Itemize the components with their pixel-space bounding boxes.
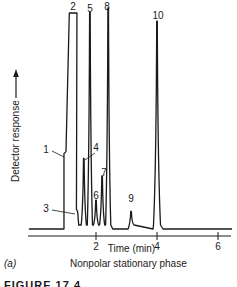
peak-label-6: 6 [93,190,99,201]
peak-label-10: 10 [152,10,164,21]
peak-label-1: 1 [43,144,49,155]
figure-caption: FIGURE 17.4 [4,279,81,287]
peak-label-7: 7 [101,167,107,178]
peak-label-4: 4 [93,142,99,153]
panel-label: (a) [4,258,16,269]
peak-label-8: 8 [104,1,110,12]
peak-leader-line [85,153,95,160]
peak-label-2: 2 [70,1,76,12]
x-axis-label: Time (min) [0,243,237,254]
y-axis-label-group: Detector response [10,69,21,182]
peak-label-3: 3 [43,203,49,214]
panel-title: Nonpolar stationary phase [70,258,187,269]
peak-labels: 12345678910 [43,1,164,214]
y-axis-label: Detector response [10,100,21,182]
panel-label-text: (a) [4,258,16,269]
arrow-up-icon [13,69,19,77]
peak-label-5: 5 [87,3,93,14]
peak-label-9: 9 [128,193,134,204]
peak-leader-line [52,151,64,157]
